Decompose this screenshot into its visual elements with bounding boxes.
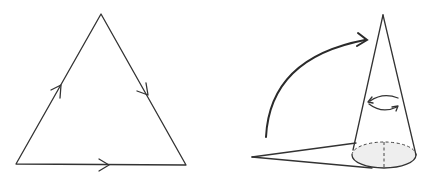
diagram-svg — [0, 0, 430, 183]
sector-upper-edge — [252, 143, 356, 157]
cone-construction — [252, 15, 416, 168]
cone-right-side — [383, 15, 416, 155]
triangle-outline — [16, 14, 186, 165]
triangle-loop — [16, 14, 186, 171]
cone-left-side — [353, 15, 383, 150]
curved-roll-arrowhead-icon — [357, 33, 367, 46]
rotation-arrow-top — [370, 96, 398, 101]
figure-canvas — [0, 0, 430, 183]
curved-roll-arrow — [266, 40, 365, 137]
